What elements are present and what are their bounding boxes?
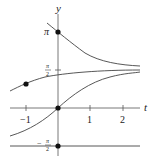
tick-label-y-pi: π xyxy=(44,26,50,37)
tick-label-y-neg-halfpi: − π 2 xyxy=(37,138,51,152)
tick-label-y-halfpi: π 2 xyxy=(45,63,51,77)
solution-curve-from-neg1 xyxy=(10,70,140,91)
y-axis-label: y xyxy=(55,2,61,14)
svg-text:π: π xyxy=(46,138,50,144)
slope-solution-diagram: y t −1 1 2 π π 2 − π 2 xyxy=(0,0,156,158)
tick-label-t-1: 1 xyxy=(87,114,92,125)
point-0-pi xyxy=(55,29,60,34)
svg-text:2: 2 xyxy=(46,146,49,152)
point-0-neg-halfpi xyxy=(55,143,60,148)
tick-label-t-neg1: −1 xyxy=(20,114,31,125)
point-origin xyxy=(55,105,60,110)
svg-text:π: π xyxy=(46,63,50,69)
solution-curve-from-origin xyxy=(10,72,140,136)
point-neg1 xyxy=(23,81,28,86)
svg-text:−: − xyxy=(37,139,42,148)
tick-label-t-2: 2 xyxy=(120,114,125,125)
solution-curve-from-pi xyxy=(47,23,140,66)
t-axis-label: t xyxy=(144,101,148,113)
